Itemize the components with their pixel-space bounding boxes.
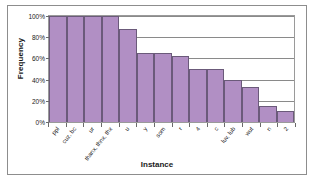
bar: [137, 53, 155, 122]
x-tick-label: wut: [244, 126, 254, 137]
bar-slot: [207, 16, 225, 122]
y-tick-label: 0%: [36, 119, 45, 126]
x-label-wrapper: luv, lub: [222, 127, 238, 145]
x-tick-label: som: [154, 126, 166, 139]
chart-figure: Frequency 0%20%40%60%80%100% pplcuz, bcu…: [7, 5, 307, 175]
x-tick-label: c: [212, 126, 219, 132]
bar: [207, 69, 225, 122]
x-tick-label: ppl: [50, 126, 60, 136]
bar-slot: [277, 16, 295, 122]
bar-slot: [137, 16, 155, 122]
x-tick-label: 2: [283, 126, 290, 132]
bar-slot: [242, 16, 260, 122]
bar-slot: [172, 16, 190, 122]
x-label-wrapper: wut: [245, 127, 255, 138]
x-tick-mark: [295, 123, 296, 127]
bar-slot: [67, 16, 85, 122]
bar: [172, 56, 190, 122]
bar: [102, 16, 120, 122]
x-label-wrapper: ppl: [52, 127, 62, 137]
x-label-wrapper: n: [266, 127, 273, 133]
x-label-wrapper: c: [214, 127, 221, 133]
x-tick-label: 4: [194, 126, 201, 132]
bar: [277, 111, 295, 122]
x-axis-title: Instance: [8, 160, 306, 169]
bar: [224, 80, 242, 122]
bar: [119, 29, 137, 122]
x-tick-label: ur: [87, 126, 95, 134]
bar-slot: [224, 16, 242, 122]
bar: [49, 16, 67, 122]
x-tick-label: luv, lub: [220, 126, 236, 144]
bar: [189, 69, 207, 122]
x-label-wrapper: ur: [89, 127, 97, 135]
bar: [67, 16, 85, 122]
x-label-wrapper: 4: [196, 127, 203, 133]
y-axis-title: Frequency: [16, 19, 25, 99]
x-label-wrapper: u: [125, 127, 132, 133]
plot-area: 0%20%40%60%80%100%: [48, 15, 295, 123]
x-label-wrapper: thanx, thnx, thx: [85, 127, 115, 163]
x-tick-label: r: [178, 126, 184, 131]
x-tick-label: u: [124, 126, 131, 132]
x-label-wrapper: 2: [284, 127, 291, 133]
bars-container: [49, 16, 294, 122]
x-tick-label: n: [265, 126, 272, 132]
bar: [84, 16, 102, 122]
bar-slot: [49, 16, 67, 122]
bar-slot: [259, 16, 277, 122]
x-tick-label: cuz, bc: [61, 126, 77, 145]
y-tick-label: 100%: [28, 13, 45, 20]
bar: [259, 106, 277, 122]
x-label-wrapper: r: [179, 127, 185, 132]
bar: [242, 87, 260, 122]
y-tick-label: 60%: [32, 55, 45, 62]
y-tick-label: 80%: [32, 34, 45, 41]
bar-slot: [102, 16, 120, 122]
x-label-wrapper: y: [143, 127, 150, 133]
y-tick-label: 40%: [32, 76, 45, 83]
x-label-wrapper: som: [156, 127, 168, 140]
bar-slot: [154, 16, 172, 122]
x-tick-label: thanx, thnx, thx: [83, 126, 113, 162]
x-tick-label: y: [142, 126, 149, 132]
bar: [154, 53, 172, 122]
bar-slot: [84, 16, 102, 122]
bar-slot: [189, 16, 207, 122]
x-label-wrapper: cuz, bc: [63, 127, 79, 146]
bar-slot: [119, 16, 137, 122]
y-tick-label: 20%: [32, 97, 45, 104]
